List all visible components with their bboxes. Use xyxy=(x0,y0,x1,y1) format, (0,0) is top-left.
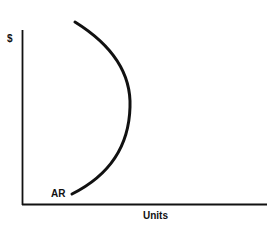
ar-curve-label: AR xyxy=(51,188,66,199)
ar-curve xyxy=(72,22,130,194)
x-axis-label: Units xyxy=(143,210,168,221)
chart: $ AR Units xyxy=(0,0,278,230)
y-axis-label: $ xyxy=(7,33,13,44)
